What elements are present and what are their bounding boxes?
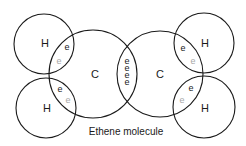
electron-light: e xyxy=(190,56,195,66)
h-top-left-label: H xyxy=(41,37,49,49)
electron-dark: e xyxy=(57,84,62,94)
electron-dark: e xyxy=(180,43,185,53)
h-bottom-right-label: H xyxy=(201,102,209,114)
electron-dark: e xyxy=(64,42,69,52)
electron-light: e xyxy=(65,95,70,105)
electron-dark: e xyxy=(188,83,193,93)
electron-dark: e xyxy=(124,77,129,87)
c-left-label: C xyxy=(91,68,99,80)
ethene-molecule-diagram: HHCCHH eeeeeeeeeeee Ethene molecule xyxy=(0,0,246,146)
electron-light: e xyxy=(179,95,184,105)
h-top-right-label: H xyxy=(201,37,209,49)
diagram-caption: Ethene molecule xyxy=(89,126,164,137)
h-bottom-left-label: H xyxy=(43,102,51,114)
c-right-label: C xyxy=(156,68,164,80)
electron-light: e xyxy=(56,56,61,66)
